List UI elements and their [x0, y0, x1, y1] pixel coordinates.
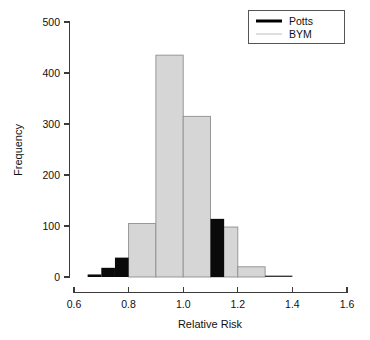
x-tick-label-0.8: 0.8	[121, 298, 136, 310]
potts-bar-2	[115, 258, 129, 277]
histogram-figure: 500 400 300 200 100 0 Frequency 0.6 0.8 …	[0, 0, 370, 340]
potts-bar-tail	[265, 276, 292, 277]
legend-label-bym: BYM	[289, 28, 312, 40]
chart-legend[interactable]: Potts BYM	[249, 11, 345, 44]
potts-bar-3	[211, 219, 225, 277]
x-tick-label-0.6: 0.6	[67, 298, 82, 310]
y-tick-label-0: 0	[54, 271, 60, 283]
y-tick-label-100: 100	[42, 220, 60, 232]
bym-bar-1	[156, 55, 183, 277]
y-tick-label-200: 200	[42, 169, 60, 181]
bym-bar-0	[129, 223, 156, 277]
y-tick-label-300: 300	[42, 118, 60, 130]
y-tick-label-500: 500	[42, 16, 60, 28]
x-axis-title: Relative Risk	[178, 318, 243, 330]
potts-bar-0	[88, 274, 102, 277]
x-tick-label-1.6: 1.6	[340, 298, 355, 310]
y-tick-label-400: 400	[42, 67, 60, 79]
chart-canvas: 500 400 300 200 100 0 Frequency 0.6 0.8 …	[0, 0, 370, 340]
x-tick-label-1.2: 1.2	[230, 298, 245, 310]
bym-bar-2	[183, 116, 210, 277]
legend-label-potts: Potts	[289, 15, 313, 27]
bym-bar-4	[238, 267, 265, 277]
x-tick-label-1.0: 1.0	[176, 298, 191, 310]
potts-bar-1	[101, 268, 115, 277]
x-tick-label-1.4: 1.4	[285, 298, 300, 310]
y-axis-title: Frequency	[12, 124, 24, 176]
